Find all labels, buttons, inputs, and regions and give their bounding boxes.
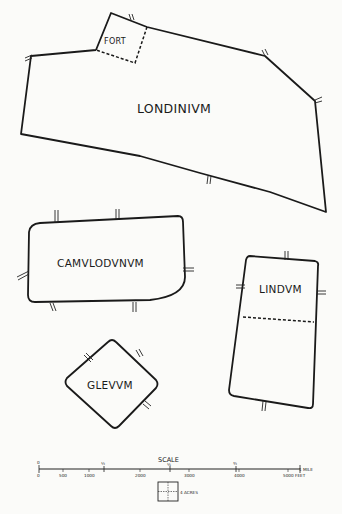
feet-500: 500 [59, 473, 67, 478]
gate-markers [236, 251, 326, 411]
scale-bar: SCALE 0 ¼ ½ ¾ 1 MILE 0 500 1000 2000 300… [37, 456, 313, 501]
mile-0: 0 [37, 460, 40, 465]
feet-1000: 1000 [84, 473, 95, 478]
glevum-plan: GLEVVM [66, 340, 158, 428]
feet-2000: 2000 [135, 473, 146, 478]
mile-quarter: ¼ [101, 461, 105, 466]
camulodunum-plan: CAMVLODVNVM [17, 209, 194, 312]
lindum-label: LINDVM [259, 283, 302, 295]
mile-1: 1 MILE [299, 467, 313, 472]
area-label: 4 ACRES [180, 490, 198, 495]
town-plans-map: FORT LONDINIVM CAMVLODVNVM LINDVM [0, 0, 342, 514]
fort-label: FORT [104, 37, 126, 46]
lindum-wall [229, 256, 318, 408]
gate-markers [25, 14, 322, 184]
feet-3000: 3000 [184, 473, 195, 478]
glevum-label: GLEVVM [87, 379, 133, 391]
mile-half: ½ [167, 462, 171, 467]
londinium-plan: FORT LONDINIVM [21, 13, 326, 212]
mile-three-quarter: ¾ [233, 461, 237, 466]
lindum-plan: LINDVM [229, 251, 326, 411]
feet-0: 0 [37, 473, 40, 478]
feet-4000: 4000 [234, 473, 245, 478]
londinium-label: LONDINIVM [137, 101, 211, 116]
feet-5000: 5000 FEET [283, 473, 306, 478]
lindum-division-dashed [243, 317, 314, 322]
camulodunum-label: CAMVLODVNVM [57, 257, 144, 269]
